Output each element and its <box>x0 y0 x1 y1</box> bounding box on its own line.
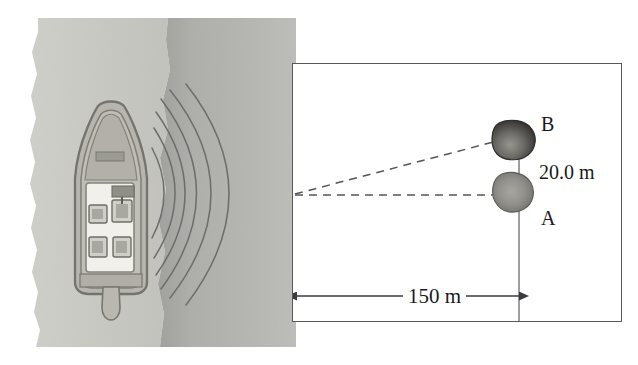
object-a-label: A <box>541 208 555 228</box>
diagram-panel: B 20.0 m A 150 m <box>292 63 622 322</box>
boat-transom <box>80 274 142 287</box>
object-a-rock <box>493 172 534 212</box>
diagram-svg <box>293 64 621 321</box>
object-b-rock <box>492 120 535 160</box>
vertical-separation-label: 20.0 m <box>539 162 595 182</box>
boat-console <box>112 186 134 197</box>
deep-water-band <box>158 18 296 347</box>
horizontal-distance-label: 150 m <box>403 286 466 307</box>
ray-to-b <box>295 140 501 194</box>
boat-outboard-motor <box>102 287 120 320</box>
object-b-label: B <box>541 114 554 134</box>
boat-bow-hatch <box>96 152 124 161</box>
water-scene-svg <box>0 0 330 365</box>
figure-canvas: B 20.0 m A 150 m <box>0 0 638 365</box>
boat <box>75 102 147 321</box>
water-scene <box>0 0 330 365</box>
